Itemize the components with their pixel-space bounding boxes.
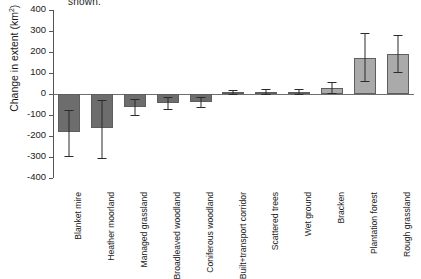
error-bar-cap-upper [295,89,304,90]
error-bar-cap-lower [360,81,369,82]
error-bar-cap-lower [229,94,238,95]
error-bar-cap-upper [393,35,402,36]
error-bar-line [167,97,168,109]
x-axis-label: Built+transport corridor [238,192,248,279]
x-axis-label: Managed grassland [139,192,149,268]
y-tick-label: 400 [6,3,46,14]
x-axis-label: Wet ground [303,192,313,236]
error-bar-cap-upper [65,110,74,111]
error-bar-cap-lower [98,158,107,159]
error-bar-cap-lower [327,93,336,94]
error-bar-cap-lower [163,109,172,110]
bar-group[interactable] [184,10,217,178]
y-tick-label: 0 [6,87,46,98]
error-bar-cap-upper [229,90,238,91]
y-tick-label: -400 [6,171,46,182]
error-bar-line [135,99,136,115]
error-bar-cap-lower [196,107,205,108]
y-tick-label: -200 [6,129,46,140]
error-bar-cap-lower [262,94,271,95]
bar-group[interactable] [53,10,86,178]
bar-series [53,10,414,178]
bar-group[interactable] [348,10,381,178]
x-axis-label: Scattered trees [270,192,280,250]
error-bar-cap-upper [98,100,107,101]
bar-group[interactable] [283,10,316,178]
error-bar-cap-lower [65,156,74,157]
y-tick-label: -100 [6,108,46,119]
bar-group[interactable] [316,10,349,178]
x-axis-label: Rough grassland [402,192,412,257]
y-tick-label: 300 [6,24,46,35]
error-bar-cap-upper [262,89,271,90]
error-bar-line [331,82,332,93]
error-bar-line [69,110,70,156]
bar-group[interactable] [250,10,283,178]
y-tick-label: 200 [6,45,46,56]
x-axis-label: Bracken [336,192,346,224]
bar-group[interactable] [151,10,184,178]
y-tick-label: 100 [6,66,46,77]
x-axis-label: Blanket mire [73,192,83,240]
plot-area: 4003002001000-100-200-300-400 Blanket mi… [53,10,414,178]
y-tick-label: -300 [6,150,46,161]
error-bar-line [364,33,365,81]
bar-group[interactable] [119,10,152,178]
error-bar-line [200,97,201,108]
error-bar-cap-lower [131,115,140,116]
error-bar-cap-lower [295,94,304,95]
error-bar-cap-upper [360,33,369,34]
error-bar-cap-upper [131,99,140,100]
error-bar-line [102,100,103,158]
x-axis-label: Plantation forest [369,192,379,254]
caption-fragment: shown. [68,0,101,7]
x-axis-label: Coniferous woodland [205,192,215,273]
error-bar-cap-upper [196,97,205,98]
bar-group[interactable] [381,10,414,178]
x-axis-label: Broadleaved woodland [172,192,182,279]
x-axis-label: Heather moorland [106,192,116,261]
error-bar-cap-upper [163,97,172,98]
error-bar-cap-upper [327,82,336,83]
error-bar-cap-lower [393,72,402,73]
error-bar-line [397,35,398,72]
bar-group[interactable] [86,10,119,178]
bar-group[interactable] [217,10,250,178]
